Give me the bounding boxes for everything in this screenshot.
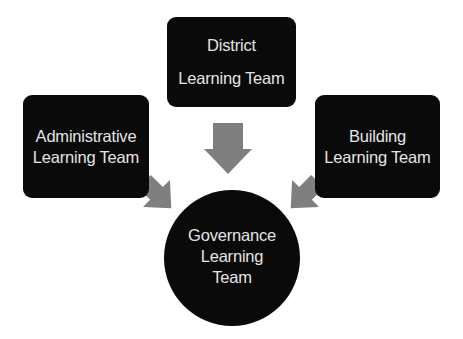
node-governance-learning-team: Governance Learning Team — [164, 190, 300, 326]
node-administrative-learning-team: Administrative Learning Team — [23, 95, 149, 198]
node-building-learning-team: Building Learning Team — [315, 95, 440, 198]
node-label-line: Learning Team — [33, 147, 139, 168]
node-label-line: Building — [349, 126, 406, 147]
node-district-learning-team: District Learning Team — [167, 17, 296, 107]
node-label-line: Learning Team — [324, 147, 430, 168]
arrow-district-to-governance — [204, 123, 252, 174]
node-label-line: Governance — [188, 225, 276, 246]
node-label-line: District — [207, 29, 256, 62]
node-label-line: Administrative — [36, 126, 137, 147]
node-label-line: Learning — [201, 246, 264, 267]
node-label-line: Team — [212, 267, 252, 288]
node-label-line: Learning Team — [178, 62, 284, 95]
